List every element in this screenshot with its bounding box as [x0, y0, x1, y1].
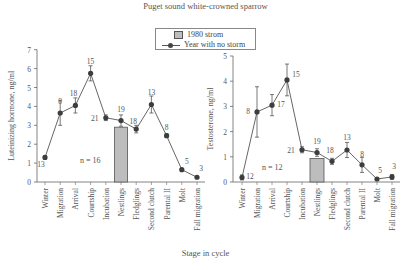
svg-text:0: 0 [223, 178, 227, 187]
svg-text:Arrival: Arrival [71, 188, 80, 210]
svg-text:0: 0 [27, 178, 31, 187]
svg-text:5: 5 [223, 52, 227, 61]
svg-text:19: 19 [313, 137, 321, 146]
svg-text:15: 15 [292, 70, 300, 79]
svg-text:4: 4 [27, 102, 31, 111]
svg-text:21: 21 [91, 114, 99, 123]
svg-text:13: 13 [37, 160, 45, 169]
svg-text:Luteinizing hormone, ng/ml: Luteinizing hormone, ng/ml [7, 70, 16, 161]
svg-text:7: 7 [27, 46, 31, 55]
svg-text:Molt: Molt [373, 187, 382, 203]
svg-text:18: 18 [129, 117, 137, 126]
svg-text:13: 13 [343, 133, 351, 142]
svg-text:Fledglings: Fledglings [132, 188, 141, 220]
svg-text:n = 12: n = 12 [262, 163, 283, 172]
svg-text:5: 5 [27, 84, 31, 93]
svg-text:Courtship: Courtship [283, 188, 292, 218]
svg-text:Winter: Winter [41, 188, 50, 209]
svg-text:6: 6 [27, 65, 31, 74]
svg-text:5: 5 [185, 157, 189, 166]
svg-text:2: 2 [223, 128, 227, 137]
svg-text:21: 21 [287, 146, 295, 155]
svg-text:Fall migration: Fall migration [193, 188, 202, 231]
svg-text:12: 12 [246, 172, 254, 181]
svg-text:4: 4 [223, 77, 227, 86]
svg-text:2: 2 [27, 140, 31, 149]
svg-text:Nestlings: Nestlings [313, 188, 322, 216]
svg-text:13: 13 [148, 88, 156, 97]
svg-text:8: 8 [360, 150, 364, 159]
svg-text:5: 5 [378, 166, 382, 175]
svg-text:Testosterone, ng/ml: Testosterone, ng/ml [206, 87, 215, 151]
svg-text:Courtship: Courtship [87, 188, 96, 218]
svg-text:Parental II: Parental II [358, 188, 367, 220]
svg-text:18: 18 [70, 89, 78, 98]
svg-text:Molt: Molt [178, 187, 187, 203]
svg-text:Incubation: Incubation [298, 188, 307, 220]
svg-text:19: 19 [117, 105, 125, 114]
svg-text:8: 8 [165, 123, 169, 132]
svg-text:Migration: Migration [56, 188, 65, 218]
svg-text:3: 3 [392, 162, 396, 171]
svg-text:Second clutch: Second clutch [343, 188, 352, 231]
svg-text:17: 17 [277, 100, 285, 109]
svg-text:Incubation: Incubation [102, 188, 111, 220]
svg-text:1: 1 [223, 153, 227, 162]
svg-text:Nestlings: Nestlings [117, 188, 126, 216]
svg-text:Fledglings: Fledglings [328, 188, 337, 220]
svg-text:3: 3 [199, 164, 203, 173]
svg-text:3: 3 [27, 121, 31, 130]
x-axis-label: Stage in cycle [0, 248, 411, 258]
svg-text:1: 1 [27, 159, 31, 168]
svg-text:Arrival: Arrival [268, 188, 277, 210]
svg-text:Fall migration: Fall migration [388, 188, 397, 231]
svg-text:15: 15 [87, 57, 95, 66]
svg-text:8: 8 [58, 97, 62, 106]
charts: 01234567WinterMigrationArrivalCourtshipI… [0, 0, 411, 270]
svg-text:3: 3 [223, 102, 227, 111]
svg-text:8: 8 [246, 107, 250, 116]
svg-text:Winter: Winter [238, 188, 247, 209]
svg-text:Migration: Migration [253, 188, 262, 218]
svg-text:Parental II: Parental II [163, 188, 172, 220]
svg-text:Second clutch: Second clutch [147, 188, 156, 231]
svg-text:18: 18 [326, 146, 334, 155]
svg-text:n = 16: n = 16 [80, 156, 101, 165]
